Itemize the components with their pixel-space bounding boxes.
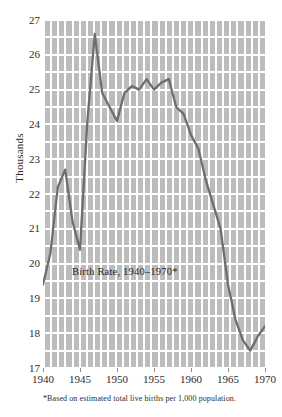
chart-inline-title: Birth Rate, 1940–1970* bbox=[72, 266, 178, 277]
birth-rate-chart-figure: Thousands 1718192021222324252627 1940194… bbox=[0, 0, 282, 417]
y-axis-tick-labels: 1718192021222324252627 bbox=[16, 0, 40, 417]
x-tick-label: 1940 bbox=[23, 374, 63, 385]
plot-area bbox=[43, 20, 265, 368]
x-tick-mark bbox=[80, 368, 81, 372]
x-axis-tick-labels: 1940194519501955196019651970 bbox=[0, 374, 282, 390]
y-tick-label: 22 bbox=[18, 189, 40, 200]
y-tick-label: 19 bbox=[18, 293, 40, 304]
x-tick-mark bbox=[117, 368, 118, 372]
x-tick-mark bbox=[265, 368, 266, 372]
y-tick-label: 26 bbox=[18, 49, 40, 60]
x-tick-label: 1945 bbox=[60, 374, 100, 385]
chart-footnote: *Based on estimated total live births pe… bbox=[43, 394, 236, 403]
y-tick-label: 17 bbox=[18, 363, 40, 374]
y-tick-label: 24 bbox=[18, 119, 40, 130]
y-tick-label: 25 bbox=[18, 84, 40, 95]
y-tick-label: 18 bbox=[18, 328, 40, 339]
x-tick-label: 1960 bbox=[171, 374, 211, 385]
y-tick-label: 27 bbox=[18, 15, 40, 26]
y-tick-label: 23 bbox=[18, 154, 40, 165]
x-tick-mark bbox=[228, 368, 229, 372]
x-tick-mark bbox=[43, 368, 44, 372]
x-tick-label: 1970 bbox=[245, 374, 282, 385]
y-tick-label: 21 bbox=[18, 223, 40, 234]
series-polyline bbox=[43, 34, 265, 351]
x-tick-label: 1950 bbox=[97, 374, 137, 385]
x-tick-label: 1965 bbox=[208, 374, 248, 385]
birth-rate-line-series bbox=[43, 20, 265, 368]
x-tick-mark bbox=[191, 368, 192, 372]
y-tick-label: 20 bbox=[18, 258, 40, 269]
x-tick-label: 1955 bbox=[134, 374, 174, 385]
x-tick-mark bbox=[154, 368, 155, 372]
